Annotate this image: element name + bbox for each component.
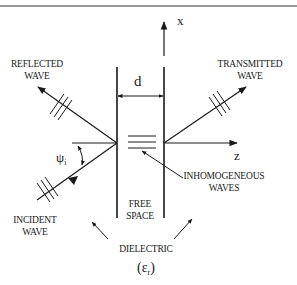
dielectric-label: DIELECTRIC xyxy=(119,244,172,254)
permittivity-label: (εr) xyxy=(137,260,155,277)
slab-width-dimension: d xyxy=(118,73,163,96)
transmitted-wave xyxy=(164,87,246,143)
z-axis-label: z xyxy=(234,148,240,163)
slab-wave-diagram: x d z xyxy=(0,0,297,285)
incident-label-line2: WAVE xyxy=(22,227,48,237)
inhomogeneous-pointer-arrow xyxy=(142,151,183,178)
dielectric-pointer-right xyxy=(174,219,192,239)
inhomogeneous-label-line1: INHOMOGENEOUS xyxy=(184,171,265,181)
free-space-label-line2: SPACE xyxy=(126,211,154,221)
x-axis: x xyxy=(164,13,184,56)
x-axis-label: x xyxy=(177,13,184,28)
transmitted-label-line1: TRANSMITTED xyxy=(218,59,283,69)
incident-wave xyxy=(37,143,117,202)
transmitted-label-line2: WAVE xyxy=(237,71,263,81)
inhomogeneous-wave-lines xyxy=(128,136,156,148)
reflected-label-line1: REFLECTED xyxy=(11,59,63,69)
inhomogeneous-label-line2: WAVES xyxy=(209,183,240,193)
free-space-label-line1: FREE xyxy=(129,199,152,209)
z-axis: z xyxy=(165,143,240,163)
slab-width-label: d xyxy=(134,73,142,89)
incident-label-line1: INCIDENT xyxy=(13,215,57,225)
incidence-angle: ψi xyxy=(56,143,117,167)
dielectric-pointer-left xyxy=(92,222,108,239)
angle-label: ψi xyxy=(56,150,67,167)
reflected-wave xyxy=(38,87,117,143)
reflected-label-line2: WAVE xyxy=(24,71,50,81)
